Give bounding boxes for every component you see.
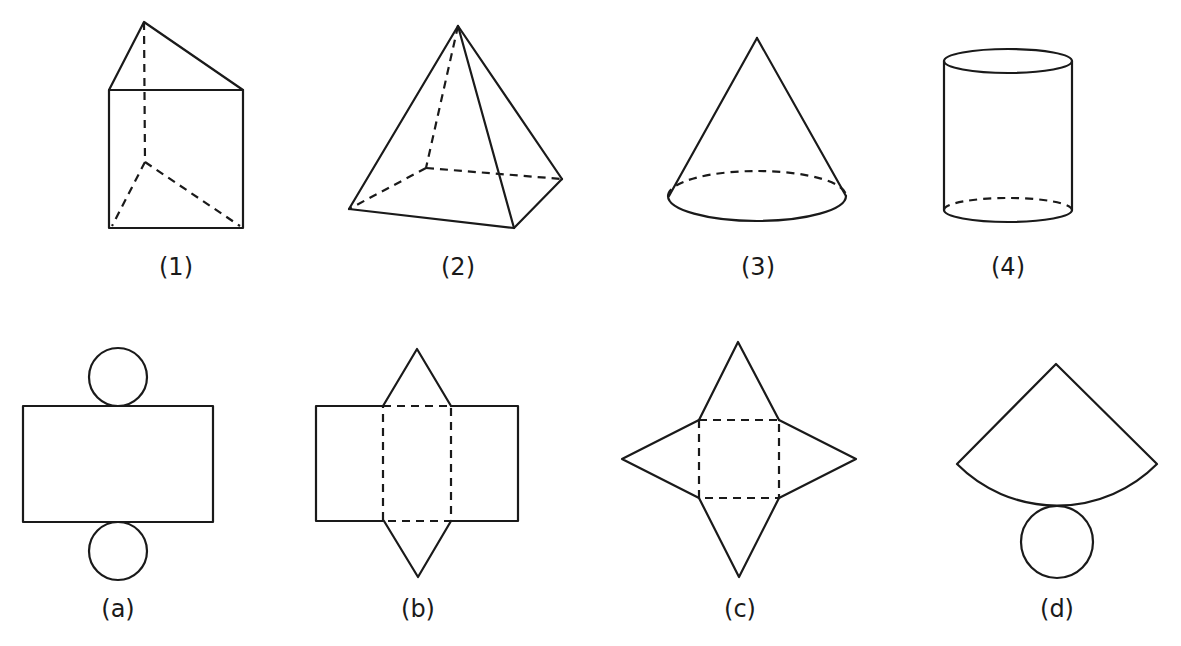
square-pyramid-net <box>622 342 856 577</box>
net-label-a: (a) <box>101 595 134 623</box>
cylinder-net <box>23 348 213 580</box>
solid-label-4: (4) <box>991 253 1025 281</box>
solid-label-1: (1) <box>159 253 193 281</box>
triangular-prism-net <box>316 349 518 577</box>
net-label-c: (c) <box>724 595 756 623</box>
net-label-b: (b) <box>401 595 435 623</box>
cone-net <box>957 364 1157 578</box>
solid-label-3: (3) <box>741 253 775 281</box>
solid-label-2: (2) <box>441 253 475 281</box>
figure-canvas <box>0 0 1181 646</box>
square-pyramid-solid <box>349 26 562 228</box>
cylinder-solid <box>944 49 1072 222</box>
cone-solid <box>668 38 846 221</box>
triangular-prism-solid <box>109 22 243 228</box>
net-label-d: (d) <box>1040 595 1074 623</box>
solids-and-nets-figure: (1) (2) (3) (4) (a) (b) (c) (d) <box>0 0 1181 646</box>
